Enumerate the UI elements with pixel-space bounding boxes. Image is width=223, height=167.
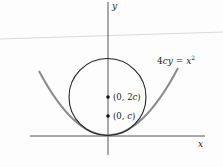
point-label-0-2c: (0, 2c) [113,92,141,102]
curve-equation-label: 4cy = x2 [157,54,195,66]
point-0-2c [106,95,110,99]
figure: y x 4cy = x2 (0, 2c) (0, c) [0,0,223,167]
y-axis-label: y [111,1,118,11]
point-label-0-c: (0, c) [113,111,135,121]
x-axis-label: x [198,139,203,149]
scan-artifact-line [0,32,223,39]
point-0-c [106,114,110,118]
diagram-canvas: y x 4cy = x2 (0, 2c) (0, c) [0,0,223,167]
